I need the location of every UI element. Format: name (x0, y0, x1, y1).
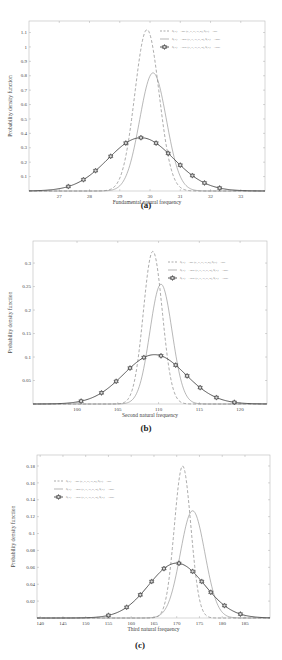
x-axis-label: Third natural frequency (127, 626, 179, 632)
y-tick-label: 0.12 (26, 514, 35, 519)
x-tick-label: 160 (127, 621, 135, 626)
x-tick-label: 185 (241, 621, 249, 626)
hexagram-marker-icon (124, 605, 128, 610)
y-axis-label: Probability density function (10, 506, 16, 568)
x-tick-label: 175 (196, 621, 204, 626)
hexagram-marker-icon (238, 611, 243, 616)
chart-panel-c: 1401451501551601651701751801850.020.040.… (0, 0, 282, 660)
x-tick-label: 165 (150, 621, 158, 626)
y-tick-label: 0.14 (26, 497, 35, 502)
x-tick-label: 180 (218, 621, 226, 626)
hexagram-marker-icon (106, 613, 111, 618)
pdf-curve-10pct (37, 511, 270, 618)
y-tick-label: 0.1 (29, 531, 36, 536)
x-tick-label: 140 (36, 621, 44, 626)
x-tick-label: 170 (173, 621, 181, 626)
y-tick-label: 0.08 (26, 548, 35, 553)
legend-entry-label: δ(X) = ±5% (E, E, G, G, ρ), δ(X) = ±5% (66, 480, 112, 483)
x-tick-label: 155 (105, 621, 113, 626)
hexagram-marker-icon (177, 561, 182, 566)
pdf-curve-15pct (37, 563, 270, 618)
legend: δ(X) = ±5% (E, E, G, G, ρ), δ(X) = ±5%δ(… (54, 480, 115, 500)
hexagram-marker-icon (56, 494, 61, 499)
pdf-chart-third: 1401451501551601651701751801850.020.040.… (0, 0, 282, 660)
y-tick-label: 0.04 (26, 582, 35, 587)
y-tick-label: 0.02 (26, 599, 35, 604)
y-tick-label: 0.18 (26, 464, 35, 469)
panel-caption-c: (c) (125, 640, 155, 650)
x-tick-label: 150 (82, 621, 90, 626)
legend-entry-label: δ(X) = ±10% (E, E, G, G, ρ), δ(X) = ±10% (66, 488, 115, 491)
legend-entry-label: δ(X) = ±15% (E, E, G, G, ρ), δ(X) = ±15% (66, 496, 115, 499)
y-tick-label: 0.06 (26, 565, 35, 570)
y-tick-label: 0.16 (26, 481, 35, 486)
x-tick-label: 145 (59, 621, 67, 626)
